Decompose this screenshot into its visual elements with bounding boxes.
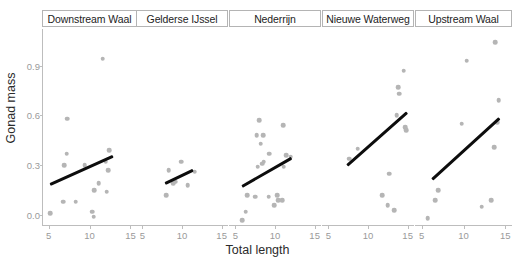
facet-strip-label: Gelderse IJssel xyxy=(136,10,228,27)
y-axis-ticks: 0.00.30.60.9 xyxy=(18,0,40,266)
regression-line xyxy=(346,111,408,166)
data-point xyxy=(64,151,69,156)
plot-area xyxy=(415,29,512,225)
x-tick-mark xyxy=(422,226,423,229)
x-tick-label: 15 xyxy=(125,230,136,241)
x-tick-label: 10 xyxy=(363,230,374,241)
data-point xyxy=(493,40,498,45)
x-tick-mark xyxy=(408,226,409,229)
x-tick-label: 5 xyxy=(326,230,331,241)
data-point xyxy=(48,211,53,216)
data-point xyxy=(100,57,105,62)
x-tick-label: 5 xyxy=(140,230,145,241)
facet-strip-label: Upstream Waal xyxy=(415,10,512,27)
x-tick-label: 5 xyxy=(233,230,238,241)
data-point xyxy=(489,198,494,203)
x-tick-mark xyxy=(182,226,183,229)
x-tick-mark xyxy=(235,226,236,229)
x-tick-mark xyxy=(505,226,506,229)
data-point xyxy=(254,133,259,138)
data-point xyxy=(465,58,470,63)
data-point xyxy=(460,121,465,126)
x-tick-label: 15 xyxy=(500,230,511,241)
data-point xyxy=(281,165,286,170)
data-point xyxy=(253,194,258,199)
data-point xyxy=(260,161,265,166)
x-tick-label: 15 xyxy=(402,230,413,241)
facet-strip-label: Nederrijn xyxy=(229,10,321,27)
data-point xyxy=(107,148,112,153)
data-point xyxy=(433,198,438,203)
data-point xyxy=(261,133,266,138)
data-point xyxy=(90,209,95,214)
data-point xyxy=(266,194,271,199)
data-point xyxy=(166,168,171,173)
data-point xyxy=(496,98,501,103)
data-point xyxy=(281,123,286,128)
facet-label-text: Nieuwe Waterweg xyxy=(326,13,409,25)
x-tick-label: 10 xyxy=(458,230,469,241)
data-point xyxy=(164,193,169,198)
y-tick-label: 0.0 xyxy=(18,210,40,221)
plot-area xyxy=(136,29,228,225)
x-tick-mark xyxy=(328,226,329,229)
plot-area xyxy=(229,29,321,225)
data-point xyxy=(280,198,285,203)
data-point xyxy=(401,68,406,73)
x-tick-mark xyxy=(222,226,223,229)
facet-label-text: Gelderse IJssel xyxy=(147,13,218,25)
data-point xyxy=(240,218,245,223)
data-point xyxy=(245,193,250,198)
data-point xyxy=(258,141,263,146)
x-tick-mark xyxy=(315,226,316,229)
data-point xyxy=(404,128,409,133)
data-point xyxy=(380,193,385,198)
data-point xyxy=(171,181,176,186)
y-tick-label: 0.9 xyxy=(18,60,40,71)
data-point xyxy=(104,189,109,194)
facet-strip-label: Nieuwe Waterweg xyxy=(322,10,414,27)
x-tick-label: 15 xyxy=(216,230,227,241)
data-point xyxy=(62,163,67,168)
chart-root: Gonad mass 0.00.30.60.9 Downstream Waal5… xyxy=(0,0,515,266)
data-point xyxy=(436,188,441,193)
data-point xyxy=(267,151,272,156)
x-axis-label: Total length xyxy=(0,243,515,257)
facet-label-text: Downstream Waal xyxy=(48,13,132,25)
x-tick-mark xyxy=(368,226,369,229)
data-point xyxy=(61,199,66,204)
data-point xyxy=(185,183,190,188)
facet-label-text: Nederrijn xyxy=(254,13,296,25)
data-point xyxy=(275,193,280,198)
data-point xyxy=(65,116,70,121)
data-point xyxy=(355,146,360,151)
data-point xyxy=(396,85,401,90)
data-point xyxy=(179,160,184,165)
y-axis-line xyxy=(42,29,43,225)
regression-line xyxy=(242,157,292,187)
x-tick-mark xyxy=(142,226,143,229)
data-point xyxy=(492,145,497,150)
x-tick-label: 15 xyxy=(309,230,320,241)
plot-area xyxy=(42,29,137,225)
facet-label-text: Upstream Waal xyxy=(428,13,499,25)
x-tick-mark xyxy=(275,226,276,229)
x-tick-mark xyxy=(130,226,131,229)
data-point xyxy=(392,208,397,213)
y-tick-label: 0.3 xyxy=(18,160,40,171)
data-point xyxy=(397,91,402,96)
plot-area xyxy=(322,29,414,225)
data-point xyxy=(255,165,260,170)
x-tick-mark xyxy=(49,226,50,229)
regression-line xyxy=(50,155,114,186)
data-point xyxy=(106,168,111,173)
facet-strip-label: Downstream Waal xyxy=(42,10,137,27)
x-tick-mark xyxy=(90,226,91,229)
x-tick-label: 10 xyxy=(270,230,281,241)
data-point xyxy=(386,203,391,208)
x-tick-label: 10 xyxy=(177,230,188,241)
data-point xyxy=(272,203,277,208)
y-tick-label: 0.6 xyxy=(18,110,40,121)
data-point xyxy=(387,171,392,176)
data-point xyxy=(243,209,248,214)
